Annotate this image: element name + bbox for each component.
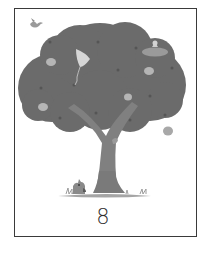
tree-canopy xyxy=(18,22,186,132)
apple-icon xyxy=(144,67,154,75)
apple-icon xyxy=(38,103,48,111)
number-label: 8 xyxy=(0,205,206,229)
dog-icon xyxy=(73,179,86,194)
apple-icon xyxy=(124,94,132,101)
apple-icon xyxy=(46,58,56,66)
bird-icon xyxy=(30,18,43,28)
apple-icon xyxy=(163,127,173,136)
